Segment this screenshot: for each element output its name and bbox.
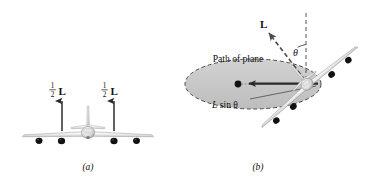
- wing-left: [23, 132, 89, 137]
- lift-vector-label-right: L: [111, 85, 118, 97]
- l-sin-theta-text: L sin θ: [211, 99, 238, 110]
- fraction-denominator-right: 2: [103, 91, 107, 99]
- figure-canvas: 1 2 L 1 2 L: [0, 0, 370, 185]
- engine-highlight-2: [59, 139, 61, 141]
- panel-a-group: 1 2 L 1 2 L: [23, 82, 154, 173]
- engine-highlight-4: [134, 139, 136, 141]
- fraction-denominator-left: 2: [51, 91, 55, 99]
- nose-gear: [87, 136, 90, 138]
- panel-a-tag: (a): [82, 162, 93, 173]
- fraction-numerator-right: 1: [103, 82, 107, 90]
- fraction-numerator-left: 1: [51, 82, 55, 90]
- theta-angle-label: θ: [293, 47, 298, 58]
- lift-vector-label-left: L: [59, 85, 66, 97]
- circle-center-dot: [235, 81, 242, 88]
- panel-b-tag: (b): [252, 162, 263, 173]
- engine-outer-left: [36, 138, 43, 144]
- engine-inner-left: [58, 138, 65, 144]
- l-sin-theta-label: L sin θ: [211, 99, 238, 110]
- wing-right-b: [307, 43, 358, 87]
- panel-b-group: θ L Path of plane L sin θ: [185, 13, 362, 173]
- engine-highlight-3: [112, 139, 114, 141]
- engine-inner-right: [110, 138, 117, 144]
- engine-highlight-1: [37, 139, 39, 141]
- wing-right: [88, 132, 154, 137]
- theta-angle-arc: [298, 45, 306, 48]
- half-lift-label-left: 1 2 L: [49, 82, 66, 99]
- lift-vector-label: L: [260, 18, 267, 30]
- l-sin-theta-rest: sin θ: [217, 99, 238, 110]
- physics-figure: 1 2 L 1 2 L: [0, 0, 370, 185]
- engine-outer-right: [133, 138, 140, 144]
- cockpit-window: [84, 128, 92, 133]
- path-of-plane-label: Path of plane: [213, 53, 264, 64]
- airplane-front-view: [23, 106, 154, 144]
- half-lift-label-right: 1 2 L: [101, 82, 118, 99]
